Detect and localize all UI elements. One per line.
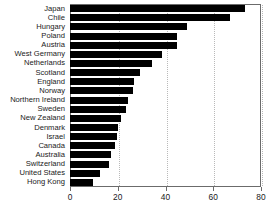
category-label-hungary: Hungary [36,23,65,31]
bar-fill [70,87,133,94]
bar-poland[interactable] [70,33,177,40]
bar-northern-ireland[interactable] [70,97,128,104]
bar-fill [70,179,93,186]
tick-label-60: 60 [209,192,218,202]
bar-fill [70,23,187,30]
category-label-australia: Australia [35,151,65,159]
category-axis-labels: JapanChileHungaryPolandAustriaWest Germa… [0,4,68,187]
bar-sweden[interactable] [70,106,126,113]
category-label-austria: Austria [41,41,65,49]
gridline-80 [262,5,264,186]
tick-label-0: 0 [68,192,73,202]
tick-mark-60 [213,187,214,191]
bar-fill [70,124,118,131]
tick-mark-0 [70,187,71,191]
category-label-israel: Israel [46,133,65,141]
bar-switzerland[interactable] [70,161,109,168]
bar-fill [70,115,121,122]
bar-hungary[interactable] [70,23,187,30]
category-label-england: England [37,78,65,86]
bar-fill [70,42,177,49]
bar-australia[interactable] [70,151,111,158]
tick-label-20: 20 [113,192,122,202]
category-label-hong-kong: Hong Kong [27,178,65,186]
bar-fill [70,69,140,76]
bar-chile[interactable] [70,14,230,21]
tick-label-80: 80 [256,192,265,202]
category-label-netherlands: Netherlands [24,59,65,67]
bar-fill [70,14,230,21]
bar-fill [70,133,117,140]
category-label-new-zealand: New Zealand [20,114,65,122]
bar-chart: JapanChileHungaryPolandAustriaWest Germa… [0,0,272,210]
tick-mark-80 [261,187,262,191]
category-label-united-states: United States [19,169,65,177]
category-label-canada: Canada [38,142,65,150]
tick-mark-20 [118,187,119,191]
bar-fill [70,170,100,177]
bar-fill [70,78,134,85]
bar-denmark[interactable] [70,124,118,131]
category-label-scotland: Scotland [35,69,65,77]
bar-fill [70,33,177,40]
category-label-sweden: Sweden [38,105,65,113]
bar-canada[interactable] [70,142,115,149]
bar-hong-kong[interactable] [70,179,93,186]
bar-united-states[interactable] [70,170,100,177]
category-label-poland: Poland [41,32,65,40]
bar-fill [70,142,115,149]
bar-fill [70,151,111,158]
bar-fill [70,51,162,58]
bar-norway[interactable] [70,87,133,94]
bar-scotland[interactable] [70,69,140,76]
bar-england[interactable] [70,78,134,85]
bar-west-germany[interactable] [70,51,162,58]
category-label-west-germany: West Germany [15,50,66,58]
bar-fill [70,5,245,12]
bar-new-zealand[interactable] [70,115,121,122]
bar-israel[interactable] [70,133,117,140]
category-label-northern-ireland: Northern Ireland [10,96,65,104]
category-label-chile: Chile [48,14,65,22]
category-label-norway: Norway [39,87,65,95]
bar-fill [70,60,152,67]
bar-fill [70,161,109,168]
tick-mark-40 [166,187,167,191]
bar-fill [70,106,126,113]
category-label-switzerland: Switzerland [26,160,65,168]
bar-japan[interactable] [70,5,245,12]
bar-fill [70,97,128,104]
value-axis-ticks: 020406080 [70,187,261,209]
bar-netherlands[interactable] [70,60,152,67]
category-label-japan: Japan [44,5,65,13]
tick-label-40: 40 [161,192,170,202]
bar-austria[interactable] [70,42,177,49]
bars-layer [70,4,261,187]
category-label-denmark: Denmark [34,124,65,132]
